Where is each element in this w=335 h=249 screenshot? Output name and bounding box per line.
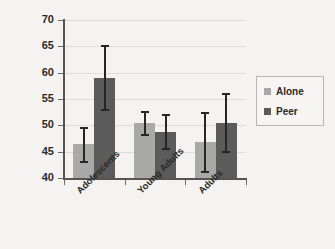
error-bar-cap (222, 151, 230, 153)
error-bar (165, 115, 167, 149)
y-axis-tick-label: 65 (28, 39, 54, 51)
legend-label-alone: Alone (276, 86, 304, 97)
error-bar-cap (141, 111, 149, 113)
y-axis-tick-label: 55 (28, 92, 54, 104)
y-axis-tick-label: 70 (28, 13, 54, 25)
x-axis-tick (185, 180, 186, 185)
error-bar-cap (201, 171, 209, 173)
legend-item-peer: Peer (264, 106, 298, 117)
error-bar-cap (101, 109, 109, 111)
x-axis-tick (64, 180, 65, 185)
error-bar-cap (80, 161, 88, 163)
bar-chart-figure: % Risky Decisions 40455055606570 Adolesc… (0, 0, 335, 249)
error-bar-cap (101, 45, 109, 47)
plot-area (64, 20, 246, 178)
error-bar (104, 46, 106, 110)
y-axis-tick-label: 50 (28, 118, 54, 130)
x-axis-tick (125, 180, 126, 185)
error-bar (83, 128, 85, 162)
y-axis-tick-label: 60 (28, 66, 54, 78)
x-axis-tick (246, 180, 247, 185)
error-bar (204, 113, 206, 171)
legend-swatch-alone-icon (264, 88, 271, 95)
error-bar-cap (141, 134, 149, 136)
chart-legend: Alone Peer (256, 76, 324, 126)
error-bar-cap (201, 112, 209, 114)
error-bar-cap (162, 114, 170, 116)
y-axis-tick-label: 40 (28, 171, 54, 183)
error-bar (144, 112, 146, 135)
error-bar-cap (222, 93, 230, 95)
y-axis-tick-label: 45 (28, 145, 54, 157)
legend-swatch-peer-icon (264, 108, 271, 115)
error-bar (225, 94, 227, 152)
legend-item-alone: Alone (264, 86, 304, 97)
error-bar-cap (80, 127, 88, 129)
legend-label-peer: Peer (276, 106, 298, 117)
error-bar-cap (162, 148, 170, 150)
